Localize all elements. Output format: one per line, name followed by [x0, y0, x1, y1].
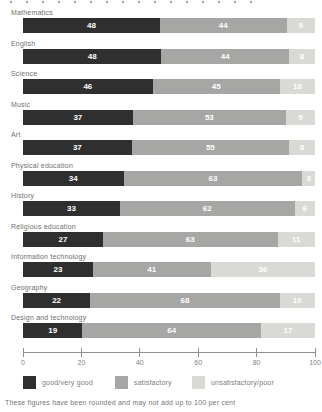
segment-value: 3	[307, 174, 311, 183]
stacked-bar: 23 41 36	[23, 262, 315, 277]
segment-value: 64	[167, 326, 176, 335]
legend-item-good: good/very good	[23, 376, 93, 389]
bar-segment-good: 37	[23, 140, 132, 155]
segment-value: 36	[258, 265, 267, 274]
subject-label: Music	[11, 100, 322, 110]
segment-value: 48	[88, 52, 97, 61]
bar-chart: Mathematics 48 44 9 English 48 44 8 Scie…	[0, 8, 322, 344]
segment-value: 19	[48, 326, 57, 335]
bar-segment-poor: 10	[280, 79, 315, 94]
subject-row-physical-education: Physical education 34 63 3	[0, 161, 322, 186]
segment-value: 34	[69, 174, 78, 183]
subject-label: History	[11, 191, 322, 201]
tick-label: 100	[309, 359, 321, 366]
bar-segment-good: 27	[23, 232, 103, 247]
segment-value: 63	[186, 235, 195, 244]
bar-segment-good: 33	[23, 201, 120, 216]
subject-label: Information technology	[11, 252, 322, 262]
bar-segment-poor: 36	[211, 262, 315, 277]
bar-segment-poor: 10	[280, 293, 315, 308]
legend-swatch-satisfactory	[115, 376, 128, 389]
bar-segment-satisfactory: 64	[82, 323, 261, 338]
subject-label: Mathematics	[11, 8, 322, 18]
subject-row-music: Music 37 53 9	[0, 100, 322, 125]
subject-label: English	[11, 39, 322, 49]
bar-segment-poor: 3	[302, 171, 315, 186]
tick-mark	[81, 348, 82, 357]
x-axis: 0 20 40 60 80 100	[23, 352, 315, 353]
segment-value: 6	[303, 204, 307, 213]
legend-swatch-good	[23, 376, 36, 389]
legend-label: satisfactory	[134, 379, 172, 386]
stacked-bar: 34 63 3	[23, 171, 315, 186]
segment-value: 22	[52, 296, 61, 305]
bar-segment-poor: 8	[289, 49, 315, 64]
bar-segment-satisfactory: 41	[93, 262, 211, 277]
bar-segment-satisfactory: 68	[90, 293, 279, 308]
segment-value: 27	[59, 235, 68, 244]
subject-label: Design and technology	[11, 313, 322, 323]
stacked-bar: 46 45 10	[23, 79, 315, 94]
segment-value: 8	[300, 52, 304, 61]
subject-row-design-and-technology: Design and technology 19 64 17	[0, 313, 322, 338]
segment-value: 46	[83, 82, 92, 91]
segment-value: 23	[54, 265, 63, 274]
footnote: These figures have been rounded and may …	[5, 399, 235, 406]
stacked-bar: 22 68 10	[23, 293, 315, 308]
segment-value: 17	[284, 326, 293, 335]
segment-value: 37	[73, 143, 82, 152]
bar-segment-satisfactory: 62	[120, 201, 294, 216]
bar-segment-poor: 6	[295, 201, 315, 216]
stacked-bar: 37 53 9	[23, 110, 315, 125]
stacked-bar: 37 55 8	[23, 140, 315, 155]
cropped-title-remnant	[10, 1, 254, 3]
bar-segment-good: 23	[23, 262, 93, 277]
segment-value: 37	[73, 113, 82, 122]
subject-row-religious-education: Religious education 27 63 11	[0, 222, 322, 247]
segment-value: 55	[206, 143, 215, 152]
stacked-bar: 48 44 8	[23, 49, 315, 64]
bar-segment-good: 22	[23, 293, 90, 308]
bar-segment-good: 34	[23, 171, 124, 186]
tick-label: 80	[253, 359, 261, 366]
legend-item-poor: unsatisfactory/poor	[192, 376, 274, 389]
segment-value: 45	[212, 82, 221, 91]
bar-segment-poor: 11	[278, 232, 315, 247]
segment-value: 63	[209, 174, 218, 183]
segment-value: 9	[299, 21, 303, 30]
tick-label: 40	[136, 359, 144, 366]
subject-label: Religious education	[11, 222, 322, 232]
subject-row-english: English 48 44 8	[0, 39, 322, 64]
subject-row-history: History 33 62 6	[0, 191, 322, 216]
bar-segment-satisfactory: 63	[124, 171, 303, 186]
bar-segment-poor: 9	[287, 18, 315, 33]
stacked-bar: 27 63 11	[23, 232, 315, 247]
subject-row-science: Science 46 45 10	[0, 69, 322, 94]
segment-value: 53	[205, 113, 214, 122]
tick-label: 60	[194, 359, 202, 366]
bar-segment-satisfactory: 53	[133, 110, 286, 125]
bar-segment-satisfactory: 55	[132, 140, 289, 155]
segment-value: 62	[203, 204, 212, 213]
subject-row-art: Art 37 55 8	[0, 130, 322, 155]
bar-segment-poor: 17	[261, 323, 315, 338]
subject-row-information-technology: Information technology 23 41 36	[0, 252, 322, 277]
bar-segment-poor: 9	[286, 110, 315, 125]
legend-swatch-poor	[192, 376, 205, 389]
legend-label: good/very good	[42, 379, 93, 386]
segment-value: 41	[147, 265, 156, 274]
legend-item-satisfactory: satisfactory	[115, 376, 172, 389]
bar-segment-satisfactory: 44	[160, 18, 286, 33]
subject-label: Geography	[11, 283, 322, 293]
segment-value: 10	[293, 296, 302, 305]
tick-mark	[198, 348, 199, 357]
subject-row-geography: Geography 22 68 10	[0, 283, 322, 308]
bar-segment-good: 48	[23, 49, 161, 64]
bar-segment-good: 46	[23, 79, 153, 94]
bar-segment-good: 48	[23, 18, 160, 33]
tick-label: 0	[21, 359, 25, 366]
bar-segment-good: 19	[23, 323, 82, 338]
subject-label: Art	[11, 130, 322, 140]
segment-value: 44	[221, 52, 230, 61]
segment-value: 68	[180, 296, 189, 305]
